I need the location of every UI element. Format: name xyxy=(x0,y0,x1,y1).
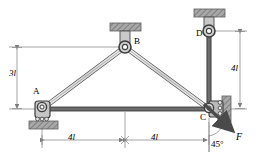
node-label-C: C xyxy=(200,112,206,122)
dimension-label-4l-left-span: 4l xyxy=(68,132,75,142)
dimension-label-4l-right: 4l xyxy=(231,63,238,73)
node-label-D: D xyxy=(196,28,203,38)
force-label-F: F xyxy=(236,131,242,142)
joint-A xyxy=(35,101,50,121)
joint-B xyxy=(119,41,131,53)
diagram-canvas: A B C D 3l 4l 4l 4l F 45° xyxy=(0,0,268,164)
node-label-A: A xyxy=(33,86,40,96)
dimension-label-3l: 3l xyxy=(9,68,16,78)
truss-diagram-svg xyxy=(0,0,268,164)
member-AB xyxy=(42,47,125,109)
joint-D xyxy=(203,25,215,37)
angle-arc xyxy=(209,127,222,136)
member-BC xyxy=(125,47,209,109)
support-block-A xyxy=(29,121,58,129)
dimension-label-4l-right-span: 4l xyxy=(151,132,158,142)
node-label-B: B xyxy=(134,36,140,46)
angle-label-45: 45° xyxy=(211,139,224,149)
